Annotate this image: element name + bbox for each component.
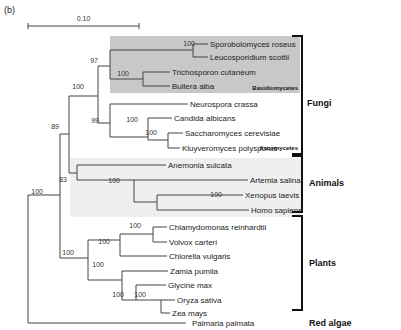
taxon-label-volvox: Volvox carteri xyxy=(169,238,217,247)
taxon-label-neurospora: Neurospora crassa xyxy=(190,100,258,109)
bootstrap-value: 100 xyxy=(98,238,110,245)
taxon-label-saccharomyces: Saccharomyces cerevisiae xyxy=(185,129,281,138)
bootstrap-value: 100 xyxy=(108,177,120,184)
taxon-label-oryza: Oryza sativa xyxy=(177,296,222,305)
clade-highlight-boxes xyxy=(70,36,302,217)
scale-bar-label: 0.10 xyxy=(77,15,91,22)
taxon-label-bullera: Bullera alba xyxy=(172,82,215,91)
bootstrap-value: 100 xyxy=(31,188,43,195)
taxon-label-xenopus: Xenopus laevis xyxy=(245,191,299,200)
taxon-label-homo: Homo sapiens xyxy=(251,206,302,215)
taxon-label-anemonia: Anemonia sulcata xyxy=(168,161,232,170)
taxon-label-candida: Candida albicans xyxy=(174,114,235,123)
taxon-label-glycine: Glycine max xyxy=(168,281,212,290)
bootstrap-value: 100 xyxy=(72,83,84,90)
taxon-label-zamia: Zamia pumila xyxy=(170,267,219,276)
taxon-label-trichosporon: Trichosporon cutaneum xyxy=(172,68,256,77)
bootstrap-value: 89 xyxy=(51,123,59,130)
bootstrap-value: 100 xyxy=(145,129,157,136)
taxon-label-chlamydomonas: Chlamydomonas reinhardtii xyxy=(169,223,267,232)
bootstrap-value: 100 xyxy=(183,40,195,47)
taxon-label-palmaria: Palmaria palmata xyxy=(192,319,255,328)
panel-label: (b) xyxy=(4,5,15,15)
taxon-label-leucosporidium: Leucosporidium scottii xyxy=(210,53,289,62)
phylogenetic-tree: 0.10 (b) Sporobolomyces roseusLeucospori… xyxy=(0,0,401,330)
bootstrap-value: 100 xyxy=(126,116,138,123)
group-label-red-algae: Red algae xyxy=(309,318,352,328)
group-label-fungi: Fungi xyxy=(307,98,332,108)
taxon-label-artemia: Artemia salina xyxy=(250,176,301,185)
bootstrap-value: 97 xyxy=(90,57,98,64)
group-label-animals: Animals xyxy=(309,178,344,188)
group-label-plants: Plants xyxy=(309,258,336,268)
taxon-label-zea: Zea mays xyxy=(172,309,207,318)
group-bracket-plants xyxy=(292,216,302,310)
bootstrap-value: 100 xyxy=(62,249,74,256)
bootstrap-value: 83 xyxy=(59,176,67,183)
bootstrap-value: 100 xyxy=(117,70,129,77)
bootstrap-value: 100 xyxy=(210,191,222,198)
bootstrap-value: 100 xyxy=(134,291,146,298)
subgroup-label-ascomycetes: Ascomycetes xyxy=(259,145,298,151)
subgroup-label-basidiomycetes: Basidiomycetes xyxy=(252,85,298,91)
subgroup-labels: BasidiomycetesAscomycetes xyxy=(252,85,298,151)
bootstrap-value: 99 xyxy=(91,117,99,124)
taxon-label-chlorella: Chlorella vulgaris xyxy=(169,252,230,261)
scale-bar: 0.10 xyxy=(28,15,139,29)
taxon-label-sporobolomyces: Sporobolomyces roseus xyxy=(210,40,296,49)
bootstrap-value: 100 xyxy=(129,222,141,229)
bootstrap-value: 100 xyxy=(92,261,104,268)
bootstrap-value: 100 xyxy=(112,291,124,298)
